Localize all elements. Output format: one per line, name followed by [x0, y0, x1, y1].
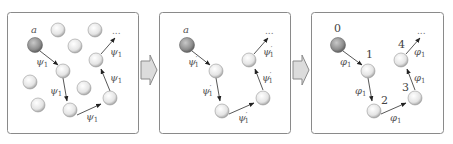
start-node	[180, 38, 195, 53]
node	[56, 64, 70, 78]
node	[209, 64, 223, 78]
panel-3: 0 1 2 3 4 φ1 φ1 φ1 φ1 φ1 ...	[312, 13, 444, 134]
node	[88, 23, 102, 37]
node	[68, 39, 82, 53]
start-node	[331, 38, 346, 53]
edge-label: ψ′1	[263, 45, 274, 59]
panel-1: a ψ1 ψ1 ψ1 ψ1 ψ1 ...	[8, 13, 139, 134]
node	[408, 91, 422, 105]
start-label: a	[31, 24, 37, 35]
continuation-dots: ...	[265, 26, 274, 36]
node	[394, 53, 408, 67]
node	[31, 98, 45, 112]
node-index-label: 1	[366, 48, 373, 61]
start-node	[28, 38, 43, 53]
node-index-label: 2	[381, 94, 388, 107]
node-index-label: 3	[402, 81, 409, 94]
node-index-label: 4	[398, 38, 405, 51]
node	[103, 91, 117, 105]
node	[242, 53, 256, 67]
transition-arrow-icon	[141, 55, 157, 85]
node	[256, 91, 270, 105]
node	[63, 103, 77, 117]
node	[23, 75, 37, 89]
node-index-label: 0	[334, 22, 341, 35]
node	[77, 81, 91, 95]
start-label: a	[183, 24, 189, 35]
node	[215, 104, 229, 118]
panel-2: a ψ′1 ψ′1 ψ′1 ψ′1 ψ′1 ...	[160, 13, 291, 134]
node	[361, 64, 375, 78]
node	[51, 23, 65, 37]
node	[367, 104, 381, 118]
edge-label: ψ′1	[238, 111, 249, 125]
edge-label: ψ′1	[262, 71, 273, 85]
diagram-canvas: a ψ1 ψ1 ψ1 ψ1 ψ1 ... a ψ′1 ψ′1 ψ′1 ψ′1 ψ…	[0, 0, 453, 144]
continuation-dots: ...	[417, 26, 426, 36]
edge-label: ψ′1	[202, 84, 213, 98]
transition-arrow-icon	[293, 55, 309, 85]
continuation-dots: ...	[112, 26, 121, 36]
edge-label: ψ′1	[188, 55, 199, 69]
node	[89, 53, 103, 67]
